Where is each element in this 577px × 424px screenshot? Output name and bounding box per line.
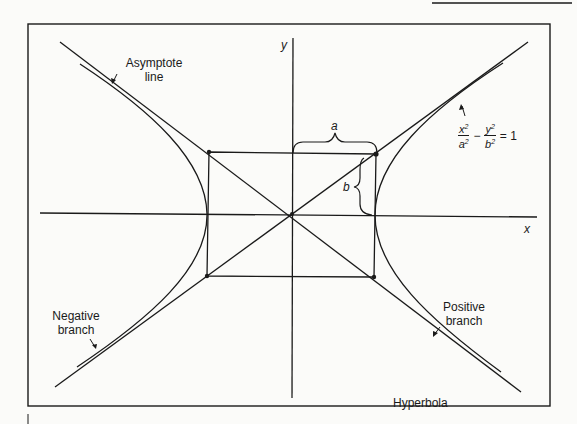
asymptote-descending <box>60 42 521 392</box>
x-axis-label: x <box>524 222 530 236</box>
y-axis-label: y <box>281 38 287 52</box>
eq-exp: 2 <box>491 123 495 130</box>
origin-point <box>290 212 294 216</box>
negative-label-line1: Negative <box>46 309 106 323</box>
negative-branch-label: Negative branch <box>46 309 106 337</box>
fraction-x: x2 a2 <box>458 121 469 150</box>
arrowhead-icon <box>433 331 438 337</box>
eq-rhs: = 1 <box>500 129 517 143</box>
eq-exp: 2 <box>465 123 469 130</box>
positive-label-line2: branch <box>436 314 492 328</box>
arrowhead-icon <box>459 104 464 110</box>
rect-corner-tr <box>373 151 378 156</box>
brace-a <box>293 133 377 153</box>
hyperbola-diagram <box>0 0 577 424</box>
negative-label-line2: branch <box>46 323 106 337</box>
rect-corner-br <box>372 275 376 279</box>
semi-minor-label: b <box>343 180 350 194</box>
hyperbola-title: Hyperbola <box>393 396 448 410</box>
eq-exp: 2 <box>491 138 495 145</box>
positive-branch-label: Positive branch <box>436 300 492 328</box>
rect-corner-tl <box>207 150 211 154</box>
asymptote-label-line2: line <box>124 70 184 84</box>
asymptote-label: Asymptote line <box>124 56 184 84</box>
eq-exp: 2 <box>465 138 469 145</box>
positive-label-line1: Positive <box>436 300 492 314</box>
asymptote-label-line1: Asymptote <box>124 56 184 70</box>
fraction-y: y2 b2 <box>484 121 495 150</box>
eq-minus: − <box>473 129 480 143</box>
hyperbola-equation: x2 a2 − y2 b2 = 1 <box>458 121 517 150</box>
semi-major-label: a <box>331 119 338 133</box>
arrowhead-icon <box>92 344 97 349</box>
rect-corner-bl <box>205 274 209 278</box>
